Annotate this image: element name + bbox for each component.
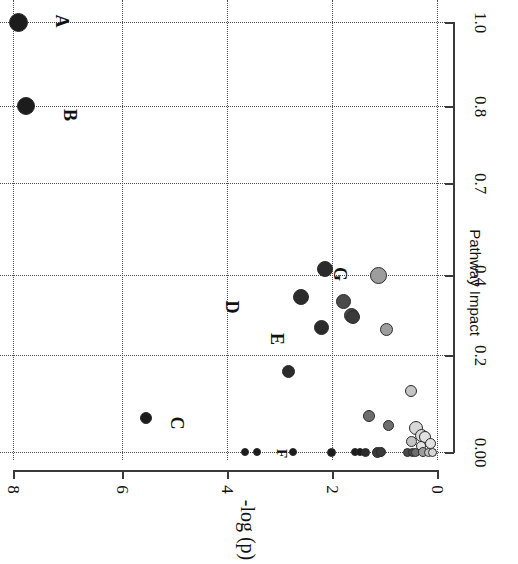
plot-panel — [0, 0, 460, 475]
x-axis-tick — [445, 106, 454, 108]
y-tick-label-0: 0 — [429, 476, 446, 504]
point-label-C: C — [168, 413, 186, 433]
gridline-vertical — [332, 0, 333, 460]
y-axis-line — [13, 470, 438, 472]
y-axis-title: -log (p) — [238, 475, 258, 564]
y-tick-label-6: 6 — [114, 476, 131, 504]
x-axis-line — [453, 22, 455, 453]
data-point — [282, 365, 295, 378]
x-axis-title: Pathway Impact — [468, 213, 483, 353]
point-label-D: D — [223, 297, 241, 317]
gridline-horizontal — [0, 355, 453, 356]
x-tick-label-1-0: 1.0 — [472, 6, 489, 40]
data-point-D — [293, 289, 309, 305]
data-point-F — [253, 448, 261, 456]
data-point — [241, 448, 249, 456]
data-point-C — [140, 412, 152, 424]
data-point — [428, 448, 437, 457]
data-point — [363, 410, 375, 422]
x-tick-label-0-7: 0.7 — [472, 167, 489, 201]
y-tick-label-8: 8 — [5, 476, 22, 504]
data-point-B — [17, 97, 35, 115]
x-tick-label-0-8: 0.8 — [472, 90, 489, 124]
gridline-vertical — [122, 0, 123, 460]
point-label-G: G — [331, 264, 349, 284]
x-axis-tick — [445, 452, 454, 454]
gridline-vertical — [227, 0, 228, 460]
gridline-horizontal — [0, 183, 453, 184]
data-point — [336, 294, 351, 309]
x-axis-tick — [445, 355, 454, 357]
y-tick-label-2: 2 — [324, 476, 341, 504]
data-point — [405, 385, 417, 397]
data-point — [370, 267, 387, 284]
x-tick-label-0-00: 0.00 — [472, 432, 489, 474]
data-point — [327, 448, 336, 457]
x-axis-tick — [445, 275, 454, 277]
y-tick-label-4: 4 — [219, 476, 236, 504]
data-point — [380, 323, 393, 336]
data-point — [376, 447, 386, 457]
data-point — [289, 448, 297, 456]
x-axis-tick — [445, 22, 454, 24]
gridline-vertical — [437, 0, 438, 460]
point-label-E: E — [268, 329, 286, 349]
data-point-E — [314, 320, 329, 335]
x-axis-tick — [445, 183, 454, 185]
data-point-A — [9, 13, 28, 32]
point-label-F: F — [274, 445, 289, 463]
data-point — [383, 420, 394, 431]
point-label-B: B — [61, 105, 79, 125]
point-label-A: A — [53, 11, 71, 31]
gridline-vertical — [13, 0, 14, 460]
data-point — [346, 310, 360, 324]
data-point — [361, 448, 370, 457]
